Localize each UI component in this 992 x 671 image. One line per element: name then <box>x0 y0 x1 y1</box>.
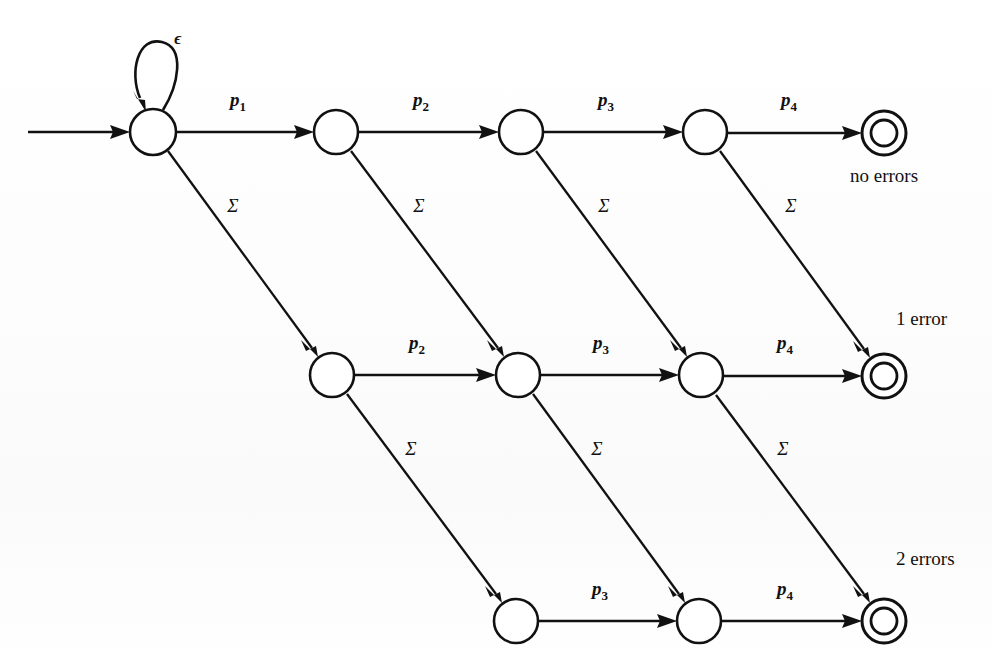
epsilon-self-loop <box>133 41 177 112</box>
sigma-label-r0c1-r1c2: Σ <box>412 195 424 216</box>
start-arrow <box>28 125 130 139</box>
sigma-label-r0c2-r1c3: Σ <box>597 195 609 216</box>
edge-label-r0c1-r0c2: p2 <box>411 89 429 114</box>
edge-r1c1-r2c2-sigma <box>347 394 502 603</box>
sigma-label-r0c3-r1c4: Σ <box>784 195 796 216</box>
edge-label-r0c3-r0c4: p4 <box>779 89 798 114</box>
state-r0c2[interactable] <box>499 110 543 154</box>
edge-label-r0c2-r0c3: p3 <box>596 89 615 114</box>
sigma-label-r1c1-r2c2: Σ <box>404 438 416 459</box>
edge-label-r1c1-r1c2: p2 <box>407 332 425 357</box>
edge-r1c2-r1c3 <box>540 368 679 382</box>
edge-label-r1c2-r1c3: p3 <box>591 332 610 357</box>
edge-label-r2c3-r2c4: p4 <box>775 578 794 603</box>
state-r2c3[interactable] <box>677 599 721 643</box>
caption-2-errors: 2 errors <box>896 548 955 569</box>
edge-label-r1c3-r1c4: p4 <box>775 332 794 357</box>
state-r0c1[interactable] <box>314 110 358 154</box>
state-r1c3[interactable] <box>679 353 723 397</box>
edge-r2c2-r2c3 <box>538 614 677 628</box>
state-r2c4-accepting[interactable] <box>862 599 906 643</box>
sigma-label-r0c0-r1c1: Σ <box>226 195 238 216</box>
edge-r0c2-r0c3 <box>543 125 683 139</box>
edge-r0c1-r1c2-sigma <box>351 151 504 357</box>
edge-r0c3-r1c4-sigma <box>720 151 870 358</box>
caption-no-errors: no errors <box>850 165 918 186</box>
state-r0c3[interactable] <box>683 110 727 154</box>
state-r1c1[interactable] <box>310 353 354 397</box>
sigma-label-r1c2-r2c3: Σ <box>590 438 602 459</box>
edge-r0c2-r1c3-sigma <box>536 151 687 357</box>
state-r1c4-accepting[interactable] <box>862 354 906 398</box>
edge-r0c0-r0c1 <box>176 125 314 139</box>
state-r1c2[interactable] <box>496 353 540 397</box>
edge-label-r2c2-r2c3: p3 <box>590 578 609 603</box>
edge-r1c3-r2c4-sigma <box>716 395 870 603</box>
epsilon-label: ϵ <box>174 29 182 48</box>
edge-r0c0-r1c1-sigma <box>168 151 318 357</box>
edge-r2c3-r2c4 <box>721 614 862 628</box>
edge-r1c2-r2c3-sigma <box>533 394 685 603</box>
automaton-canvas: ϵ <box>0 0 992 671</box>
edge-label-r0c0-r0c1: p1 <box>228 89 246 114</box>
automaton-diagram: ϵ <box>0 0 992 671</box>
edge-r1c3-r1c4 <box>723 369 862 383</box>
state-r0c0-start[interactable] <box>130 109 176 155</box>
caption-1-error: 1 error <box>896 308 948 329</box>
edge-r1c1-r1c2 <box>354 368 496 382</box>
state-r0c4-accepting[interactable] <box>862 111 906 155</box>
edge-r0c3-r0c4 <box>727 126 862 140</box>
sigma-label-r1c3-r2c4: Σ <box>776 438 788 459</box>
edge-r0c1-r0c2 <box>358 125 499 139</box>
state-r2c2[interactable] <box>494 599 538 643</box>
